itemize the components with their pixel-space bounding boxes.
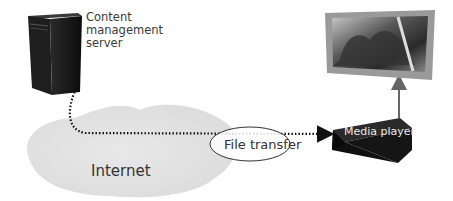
file-transfer-label: File transfer [224,137,301,152]
diagram-canvas [0,0,453,201]
server-tower-icon [28,13,82,95]
server-label: Content management server [86,11,163,50]
cloud-icon [27,105,237,198]
tv-screen-icon [325,10,435,80]
internet-label: Internet [91,162,151,180]
media-player-label: Media player [344,125,415,138]
server-label-line: server [86,37,163,50]
